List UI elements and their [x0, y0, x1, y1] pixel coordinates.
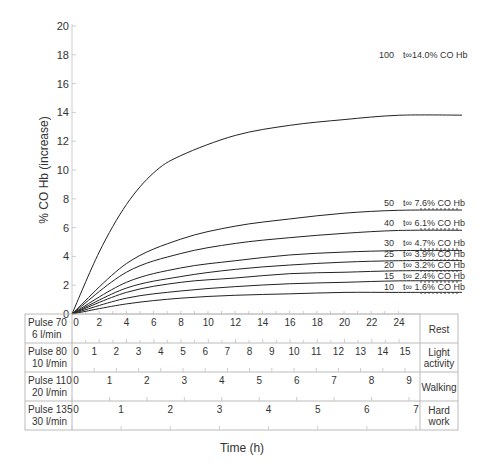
time-tick-label: 5	[256, 375, 262, 386]
time-tick-label: 6	[151, 317, 157, 328]
curve-10	[72, 292, 462, 314]
time-tick-label: 18	[312, 317, 324, 328]
time-tick-label: 2	[96, 317, 102, 328]
time-tick-label: 5	[180, 346, 186, 357]
time-tick-label: 7	[413, 404, 419, 415]
curve-labels: 100t∞14.0% CO Hb50t∞ 7.6% CO Hb40t∞ 6.1%…	[379, 50, 467, 293]
equilibrium-label: t∞ 3.9% CO Hb	[403, 249, 465, 259]
time-tick-label: 6	[364, 404, 370, 415]
curve-label: 40	[384, 218, 394, 228]
time-tick-label: 12	[230, 317, 242, 328]
time-tick-label: 3	[217, 404, 223, 415]
curve-label: 100	[379, 50, 394, 60]
time-tick-label: 0	[73, 346, 79, 357]
time-tick-label: 4	[219, 375, 225, 386]
time-tick-label: 13	[355, 346, 367, 357]
y-axis-label: % CO Hb (increase)	[37, 116, 51, 223]
y-tick-label: 12	[57, 135, 69, 147]
x-axis-label: Time (h)	[220, 441, 264, 455]
time-tick-label: 14	[377, 346, 389, 357]
time-tick-label: 1	[118, 404, 124, 415]
time-tick-label: 2	[144, 375, 150, 386]
time-tick-label: 20	[339, 317, 351, 328]
time-tick-label: 7	[225, 346, 231, 357]
ventilation-label: 30 l/min	[32, 416, 67, 427]
time-tick-label: 2	[168, 404, 174, 415]
time-tick-label: 10	[288, 346, 300, 357]
equilibrium-label: t∞ 6.1% CO Hb	[403, 218, 465, 228]
time-tick-label: 7	[331, 375, 337, 386]
pulse-label: Pulse 135	[28, 404, 73, 415]
time-tick-label: 10	[203, 317, 215, 328]
y-tick-label: 6	[63, 222, 69, 234]
time-tick-label: 0	[73, 317, 79, 328]
time-tick-label: 4	[124, 317, 130, 328]
time-tick-label: 1	[107, 375, 113, 386]
y-tick-label: 2	[63, 279, 69, 291]
time-tick-label: 8	[247, 346, 253, 357]
ventilation-label: 6 l/min	[32, 329, 61, 340]
activity-label: activity	[424, 358, 455, 369]
pulse-label: Pulse 80	[28, 346, 67, 357]
time-tick-label: 3	[182, 375, 188, 386]
time-tick-label: 5	[315, 404, 321, 415]
curve-label: 15	[384, 271, 394, 281]
y-tick-label: 8	[63, 193, 69, 205]
pulse-label: Pulse 70	[28, 317, 67, 328]
activity-table: Pulse 706 l/minRest024681012141618202224…	[25, 314, 458, 430]
time-tick-label: 2	[114, 346, 120, 357]
activity-label: work	[427, 416, 450, 427]
time-tick-label: 0	[73, 375, 79, 386]
curve-label: 20	[384, 260, 394, 270]
curve-label: 10	[384, 282, 394, 292]
ventilation-label: 10 l/min	[32, 358, 67, 369]
time-tick-label: 8	[178, 317, 184, 328]
time-tick-label: 4	[158, 346, 164, 357]
time-tick-label: 22	[366, 317, 378, 328]
y-axis: 02468101214161820	[57, 20, 420, 320]
curve-label: 30	[384, 238, 394, 248]
time-tick-label: 1	[91, 346, 97, 357]
time-tick-label: 16	[284, 317, 296, 328]
curve-label: 25	[384, 249, 394, 259]
activity-label: Rest	[429, 324, 450, 335]
time-tick-label: 9	[269, 346, 275, 357]
activity-label: Walking	[421, 382, 456, 393]
y-tick-label: 20	[57, 20, 69, 32]
activity-label: Hard	[428, 405, 450, 416]
curve-label: 50	[384, 198, 394, 208]
equilibrium-label: t∞ 7.6% CO Hb	[403, 198, 465, 208]
time-tick-label: 14	[257, 317, 269, 328]
time-tick-label: 8	[369, 375, 375, 386]
equilibrium-label: t∞ 3.2% CO Hb	[403, 260, 465, 270]
time-tick-label: 6	[294, 375, 300, 386]
y-tick-label: 16	[57, 78, 69, 90]
time-tick-label: 4	[266, 404, 272, 415]
co-hb-chart: 02468101214161820 % CO Hb (increase) 100…	[0, 0, 485, 474]
time-tick-label: 9	[406, 375, 412, 386]
time-tick-label: 12	[333, 346, 345, 357]
y-tick-label: 18	[57, 49, 69, 61]
activity-label: Light	[428, 347, 450, 358]
equilibrium-label: t∞ 2.4% CO Hb	[403, 271, 465, 281]
equilibrium-label: t∞ 1.6% CO Hb	[403, 282, 465, 292]
time-tick-label: 3	[136, 346, 142, 357]
y-tick-label: 4	[63, 250, 69, 262]
time-tick-label: 11	[311, 346, 322, 357]
pulse-label: Pulse 110	[28, 375, 72, 386]
time-tick-label: 6	[202, 346, 208, 357]
ventilation-label: 20 l/min	[32, 387, 67, 398]
time-tick-label: 15	[399, 346, 411, 357]
equilibrium-label: t∞14.0% CO Hb	[403, 50, 467, 60]
equilibrium-label: t∞ 4.7% CO Hb	[403, 238, 465, 248]
time-tick-label: 0	[73, 404, 79, 415]
y-tick-label: 10	[57, 164, 69, 176]
time-tick-label: 24	[393, 317, 405, 328]
y-tick-label: 14	[57, 106, 69, 118]
